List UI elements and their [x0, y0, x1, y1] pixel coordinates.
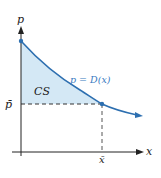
price-intercept-point — [19, 39, 23, 43]
x-axis-arrow-icon — [136, 149, 144, 155]
region-label: CS — [34, 85, 50, 98]
consumer-surplus-diagram: p x CS p = D(x) p̄ x̄ — [0, 0, 161, 178]
y-axis-label: p — [17, 13, 24, 26]
y-axis-arrow-icon — [18, 26, 24, 34]
equilibrium-price-label: p̄ — [5, 98, 12, 111]
demand-curve-arrow-icon — [135, 112, 143, 118]
equilibrium-quantity-label: x̄ — [99, 154, 105, 165]
x-axis-label: x — [146, 145, 153, 158]
equilibrium-point — [100, 102, 104, 106]
curve-label: p = D(x) — [70, 74, 111, 85]
